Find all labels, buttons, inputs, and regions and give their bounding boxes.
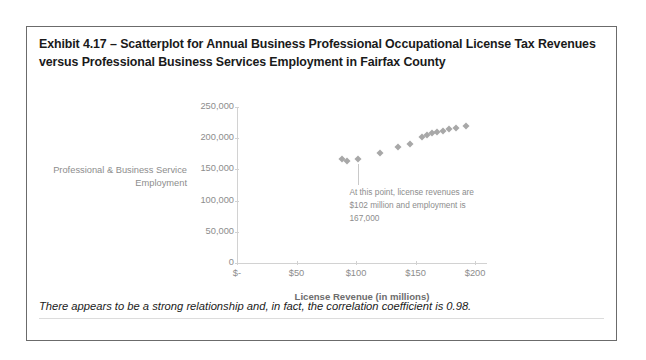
y-axis-line bbox=[237, 107, 238, 263]
x-axis-tick-label: $200 bbox=[453, 268, 497, 278]
footer-divider bbox=[39, 318, 604, 319]
exhibit-page: Exhibit 4.17 – Scatterplot for Annual Bu… bbox=[0, 0, 646, 360]
x-axis-tick-label: $150 bbox=[394, 268, 438, 278]
x-axis-tick-label: $- bbox=[215, 268, 259, 278]
footer-note: There appears to be a strong relationshi… bbox=[39, 299, 599, 315]
y-axis-tick bbox=[235, 169, 239, 170]
y-axis-tick-label: 50,000 bbox=[174, 226, 234, 236]
y-axis-tick-label: 200,000 bbox=[174, 132, 234, 142]
x-axis-tick-label: $50 bbox=[275, 268, 319, 278]
x-axis-tick bbox=[237, 261, 238, 265]
y-axis-tick bbox=[235, 138, 239, 139]
x-axis-tick bbox=[356, 261, 357, 265]
y-axis-tick bbox=[235, 107, 239, 108]
annotation-leader-line bbox=[358, 164, 359, 185]
x-axis-tick bbox=[297, 261, 298, 265]
x-axis-tick bbox=[475, 261, 476, 265]
x-axis-tick bbox=[416, 261, 417, 265]
exhibit-panel: Exhibit 4.17 – Scatterplot for Annual Bu… bbox=[26, 26, 617, 341]
data-point bbox=[462, 123, 469, 130]
data-point bbox=[394, 143, 401, 150]
y-axis-tick-label: 100,000 bbox=[174, 195, 234, 205]
data-point bbox=[445, 126, 452, 133]
data-point bbox=[343, 158, 350, 165]
plot-region: 050,000100,000150,000200,000250,000 $-$5… bbox=[237, 107, 487, 263]
x-axis-tick-label: $100 bbox=[334, 268, 378, 278]
y-axis-tick-label: 0 bbox=[174, 257, 234, 267]
annotation-text: At this point, license revenues are $102… bbox=[349, 186, 481, 225]
data-point bbox=[376, 150, 383, 157]
exhibit-title: Exhibit 4.17 – Scatterplot for Annual Bu… bbox=[39, 36, 599, 72]
y-axis-title: Professional & Business Service Employme… bbox=[35, 164, 187, 191]
scatterplot-chart: Professional & Business Service Employme… bbox=[27, 89, 618, 304]
x-axis-line bbox=[237, 263, 487, 264]
y-axis-tick bbox=[235, 232, 239, 233]
y-axis-tick-label: 250,000 bbox=[174, 101, 234, 111]
y-axis-tick-label: 150,000 bbox=[174, 163, 234, 173]
y-axis-tick bbox=[235, 201, 239, 202]
data-point bbox=[355, 155, 362, 162]
data-point bbox=[406, 141, 413, 148]
data-point bbox=[453, 125, 460, 132]
